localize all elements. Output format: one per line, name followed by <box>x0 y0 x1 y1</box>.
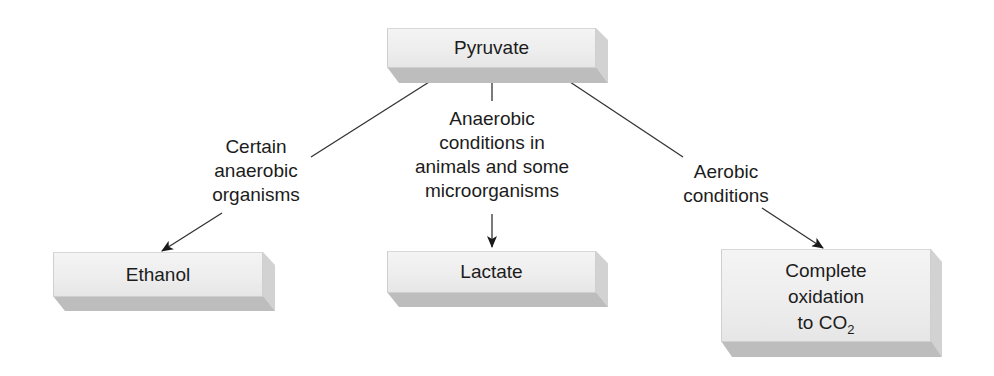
edge-label-right: Aerobic conditions <box>683 160 769 208</box>
box-bottom <box>721 341 942 357</box>
node-label-line2: oxidation <box>788 284 864 310</box>
edge-label-left: Certain anaerobic organisms <box>212 135 300 207</box>
node-label-line1: Complete <box>785 258 866 284</box>
node-label-line3: to CO2 <box>798 310 855 336</box>
node-label: Lactate <box>460 260 522 284</box>
node-label: Ethanol <box>126 263 190 287</box>
edge-left-arrow <box>162 213 222 251</box>
edge-right-upper <box>561 76 683 157</box>
box-side <box>931 249 942 357</box>
edge-right-arrow <box>762 208 823 248</box>
edge-label-middle: Anaerobic conditions in animals and some… <box>415 107 569 203</box>
box-bottom <box>53 296 275 311</box>
box-bottom <box>387 67 608 83</box>
node-label: Pyruvate <box>454 36 529 60</box>
box-bottom <box>387 292 608 307</box>
